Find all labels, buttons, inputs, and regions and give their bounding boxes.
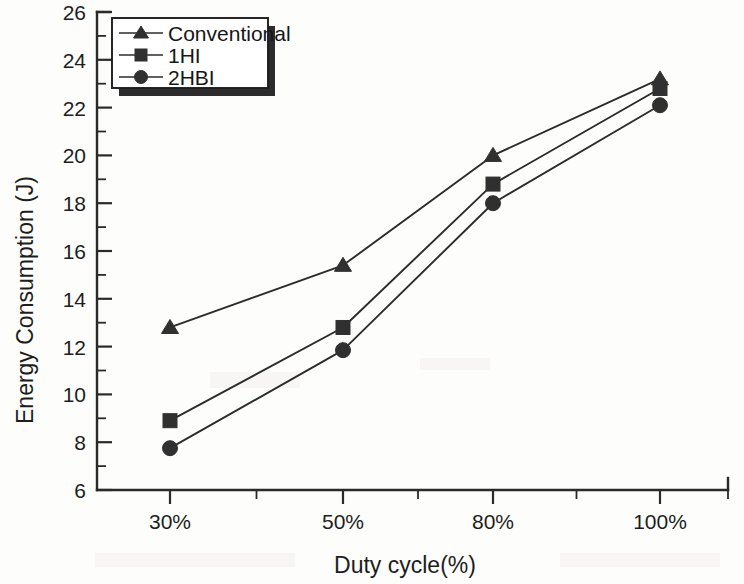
legend-label: 2HBI — [168, 66, 215, 89]
data-point-triangle — [485, 147, 502, 161]
square-icon — [135, 49, 147, 61]
y-tick-label: 8 — [74, 431, 86, 454]
data-point-circle — [653, 98, 668, 113]
legend-label: 1HI — [168, 44, 201, 67]
data-point-square — [336, 320, 350, 334]
circle-icon — [135, 71, 148, 84]
data-point-triangle — [335, 257, 352, 271]
data-point-square — [486, 177, 500, 191]
data-point-circle — [163, 441, 178, 456]
line-chart: Energy Consumption (J) Duty cycle(%) — [0, 0, 744, 584]
y-tick-label: 10 — [63, 383, 86, 406]
series-1hi — [163, 81, 667, 427]
series-line — [170, 105, 660, 448]
x-axis-ticks — [170, 490, 728, 504]
x-axis-title: Duty cycle(%) — [334, 552, 476, 578]
y-axis-title: Energy Consumption (J) — [12, 176, 38, 424]
y-tick-label: 24 — [63, 49, 87, 72]
y-tick-label: 12 — [63, 336, 86, 359]
y-axis-tick-labels: 26 24 22 20 18 16 14 12 10 8 6 — [63, 1, 87, 502]
legend-label: Conventional — [168, 22, 291, 45]
y-tick-label: 20 — [63, 144, 86, 167]
data-point-triangle — [162, 319, 179, 333]
series-line — [170, 79, 660, 328]
chart-page: Energy Consumption (J) Duty cycle(%) — [0, 0, 744, 584]
y-tick-label: 18 — [63, 192, 86, 215]
y-tick-label: 16 — [63, 240, 86, 263]
legend[interactable]: Conventional 1HI 2HBI — [112, 18, 291, 96]
y-tick-label: 14 — [63, 288, 87, 311]
x-tick-label: 30% — [149, 510, 191, 533]
data-point-circle — [336, 343, 351, 358]
y-tick-label: 6 — [74, 479, 86, 502]
x-tick-label: 80% — [472, 510, 514, 533]
y-tick-label: 26 — [63, 1, 86, 24]
data-point-square — [653, 81, 667, 95]
x-axis-tick-labels: 30% 50% 80% 100% — [149, 510, 687, 533]
y-axis-ticks — [97, 12, 112, 490]
series-2hbi — [163, 98, 668, 456]
data-point-circle — [486, 196, 501, 211]
series-line — [170, 88, 660, 420]
series-conventional — [162, 71, 669, 334]
y-tick-label: 22 — [63, 97, 86, 120]
data-point-square — [163, 414, 177, 428]
x-tick-label: 50% — [322, 510, 364, 533]
data-series-layer — [162, 71, 669, 456]
x-tick-label: 100% — [633, 510, 687, 533]
